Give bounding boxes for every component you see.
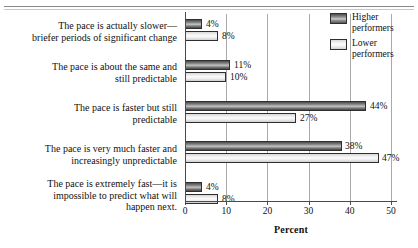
legend-item-higher-performers: Higher performers: [330, 12, 394, 33]
bar-value-lower-3: 47%: [382, 153, 399, 163]
bar-lower-2: [185, 113, 296, 123]
bar-lower-0: [185, 31, 218, 41]
x-tick-mark-0: [185, 201, 186, 205]
x-axis-title: Percent: [185, 224, 397, 235]
bar-value-higher-0: 4%: [206, 19, 219, 29]
category-label-0: The pace is actually slower— briefer per…: [1, 20, 177, 43]
bar-higher-0: [185, 19, 202, 29]
legend-item-lower-performers: Lower performers: [330, 38, 394, 59]
bar-value-lower-2: 27%: [300, 113, 317, 123]
bar-value-higher-2: 44%: [370, 101, 387, 111]
bar-higher-1: [185, 60, 230, 70]
bar-lower-1: [185, 72, 226, 82]
bar-lower-4: [185, 194, 218, 204]
bar-higher-2: [185, 101, 366, 111]
x-axis-line: [185, 201, 397, 202]
legend-swatch-lower-icon: [330, 39, 347, 50]
bar-value-lower-4: 8%: [222, 194, 235, 204]
x-tick-mark-30: [309, 201, 310, 205]
bar-higher-3: [185, 141, 342, 151]
x-tick-label-30: 30: [304, 206, 314, 216]
x-tick-label-20: 20: [263, 206, 273, 216]
x-tick-mark-50: [391, 201, 392, 205]
x-tick-mark-10: [226, 201, 227, 205]
bar-value-higher-1: 11%: [234, 60, 251, 70]
bar-value-lower-0: 8%: [222, 31, 235, 41]
bar-value-higher-4: 4%: [206, 182, 219, 192]
legend-swatch-higher-icon: [330, 13, 347, 24]
x-tick-label-50: 50: [386, 206, 396, 216]
x-tick-label-40: 40: [345, 206, 355, 216]
category-label-2: The pace is faster but still predictable: [1, 102, 177, 125]
x-tick-mark-20: [267, 201, 268, 205]
bar-value-higher-3: 38%: [345, 141, 362, 151]
category-axis-labels: The pace is actually slower— briefer per…: [0, 0, 181, 248]
figure-bar-chart: The pace is actually slower— briefer per…: [0, 0, 418, 248]
category-label-1: The pace is about the same and still pre…: [1, 61, 177, 84]
legend-label-higher: Higher performers: [352, 12, 394, 33]
bar-value-lower-1: 10%: [230, 72, 247, 82]
category-label-4: The pace is extremely fast—it is impossi…: [1, 178, 177, 213]
x-tick-mark-40: [350, 201, 351, 205]
x-tick-label-0: 0: [183, 206, 188, 216]
bar-lower-3: [185, 153, 379, 163]
legend-label-lower: Lower performers: [352, 38, 394, 59]
y-axis-line: [185, 12, 186, 202]
x-tick-label-10: 10: [221, 206, 231, 216]
bar-higher-4: [185, 182, 202, 192]
category-label-3: The pace is very much faster and increas…: [1, 143, 177, 166]
